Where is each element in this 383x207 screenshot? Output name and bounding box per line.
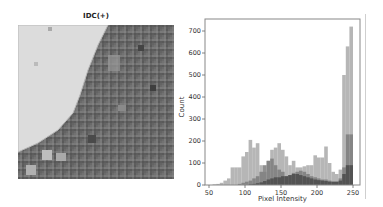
histogram-bar	[306, 177, 310, 185]
x-tick-label: 50	[205, 189, 213, 197]
y-tick-label: 300	[189, 115, 201, 123]
y-tick-label: 400	[189, 93, 201, 101]
histogram-bar	[249, 140, 253, 185]
y-tick-label: 100	[189, 159, 201, 167]
histogram-bar	[303, 176, 307, 185]
histogram-bar	[295, 174, 299, 185]
histogram-bar	[299, 175, 303, 185]
pixel-intensity-histogram: 010020030040050060070050100150200250Pixe…	[0, 0, 383, 207]
histogram-bar	[241, 156, 245, 185]
histogram-bar	[339, 181, 343, 185]
y-tick-label: 700	[189, 27, 201, 35]
histogram-bar	[238, 167, 242, 185]
panel-divider	[365, 14, 366, 199]
histogram-bar	[227, 178, 231, 185]
histogram-bar	[313, 180, 317, 186]
y-tick-label: 500	[189, 71, 201, 79]
x-tick-label: 100	[239, 189, 251, 197]
histogram-bar	[346, 165, 350, 185]
histogram-bar	[288, 175, 292, 185]
histogram-bar	[263, 181, 267, 185]
histogram-bar	[270, 178, 274, 185]
histogram-bar	[245, 152, 249, 185]
histogram-bar	[292, 174, 296, 185]
histogram-bar	[321, 181, 325, 185]
histogram-bar	[310, 178, 314, 185]
y-tick-label: 600	[189, 49, 201, 57]
x-tick-label: 200	[311, 189, 323, 197]
histogram-bar	[223, 181, 227, 185]
histogram-bar	[324, 181, 328, 185]
histogram-bar	[267, 180, 271, 186]
histogram-bar	[231, 167, 235, 185]
histogram-bar	[277, 177, 281, 185]
histogram-bar	[281, 176, 285, 185]
x-axis-label: Pixel Intensity	[258, 195, 307, 203]
y-axis-label: Count	[178, 96, 186, 117]
histogram-bar	[285, 176, 289, 185]
histogram-bar	[349, 165, 353, 185]
histogram-bar	[342, 174, 346, 185]
histogram-bar	[274, 177, 278, 185]
histogram-bar	[324, 147, 328, 186]
x-tick-label: 250	[347, 189, 359, 197]
histogram-bar	[234, 167, 238, 185]
y-tick-label: 0	[197, 181, 201, 189]
histogram-bar	[317, 180, 321, 185]
y-tick-label: 200	[189, 137, 201, 145]
